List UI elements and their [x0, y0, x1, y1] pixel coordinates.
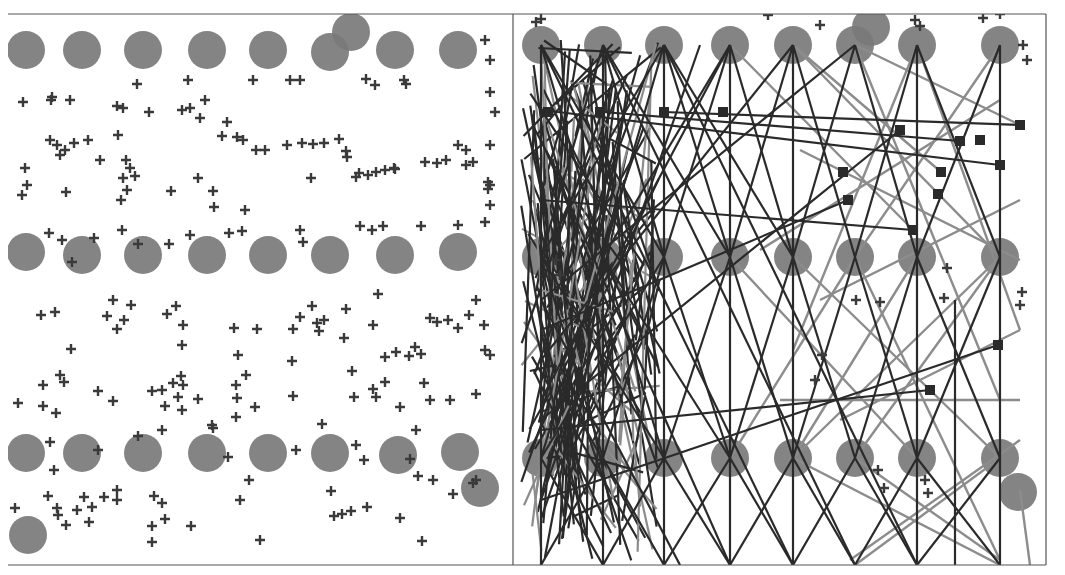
circle-node — [188, 434, 226, 472]
network-hub — [925, 385, 935, 395]
circle-node — [376, 236, 414, 274]
circle-node — [439, 233, 477, 271]
network-hub — [543, 107, 553, 117]
circle-node — [63, 31, 101, 69]
figure-canvas — [0, 0, 1065, 575]
figure-two-panel — [0, 0, 1065, 575]
network-hub — [936, 167, 946, 177]
circle-node — [311, 434, 349, 472]
network-hub — [995, 160, 1005, 170]
network-hub — [838, 167, 848, 177]
circle-node — [999, 473, 1037, 511]
circle-node — [439, 31, 477, 69]
circle-node — [249, 236, 287, 274]
network-hub — [895, 125, 905, 135]
circle-node — [7, 31, 45, 69]
circle-node — [124, 236, 162, 274]
network-hub — [975, 135, 985, 145]
network-hub — [955, 136, 965, 146]
circle-node — [7, 233, 45, 271]
circle-node — [379, 436, 417, 474]
network-hub — [718, 107, 728, 117]
circle-node — [188, 31, 226, 69]
circle-node — [376, 31, 414, 69]
circle-node — [311, 236, 349, 274]
circle-node — [9, 516, 47, 554]
circle-node — [63, 434, 101, 472]
network-hub — [659, 107, 669, 117]
network-hub — [595, 107, 605, 117]
circle-node — [7, 434, 45, 472]
circle-node — [332, 13, 370, 51]
network-hub — [933, 189, 943, 199]
circle-node — [249, 434, 287, 472]
circle-node — [249, 31, 287, 69]
circle-node — [188, 236, 226, 274]
circle-node — [461, 469, 499, 507]
network-hub — [908, 225, 918, 235]
network-hub — [1015, 120, 1025, 130]
circle-node — [124, 31, 162, 69]
circle-node — [124, 434, 162, 472]
circle-node — [63, 236, 101, 274]
network-hub — [993, 340, 1003, 350]
circle-node — [441, 433, 479, 471]
network-hub — [843, 195, 853, 205]
